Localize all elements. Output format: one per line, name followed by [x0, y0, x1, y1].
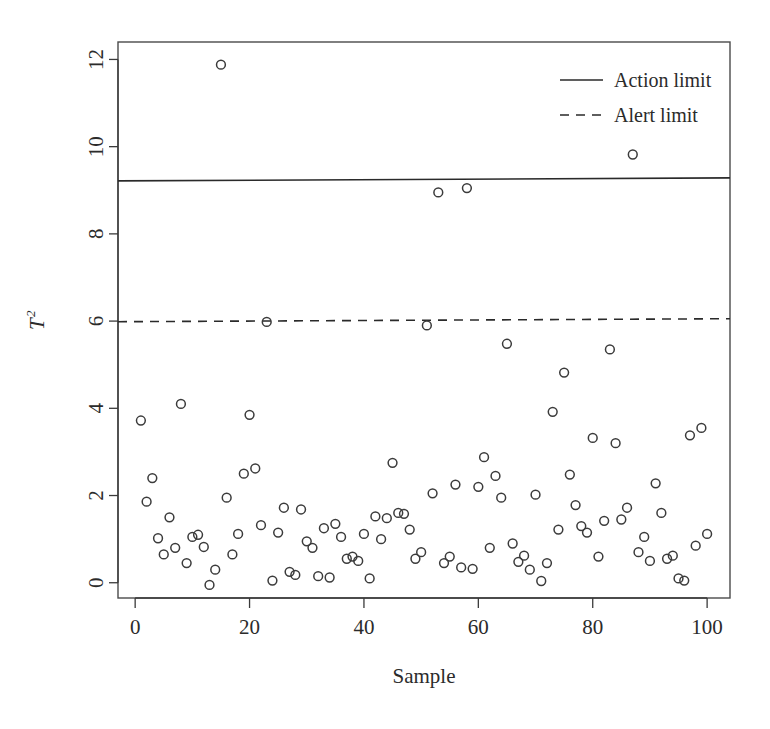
data-point — [159, 550, 168, 559]
data-point — [697, 424, 706, 433]
data-point — [554, 525, 563, 534]
data-point — [480, 453, 489, 462]
data-point — [485, 543, 494, 552]
data-point — [646, 557, 655, 566]
x-tick-label-100: 100 — [691, 615, 723, 639]
data-point — [211, 565, 220, 574]
reference-line-action-limit — [118, 178, 730, 181]
legend-label-alert-limit: Alert limit — [614, 104, 698, 126]
x-tick-label-20: 20 — [239, 615, 260, 639]
data-point — [400, 509, 409, 518]
data-point — [171, 543, 180, 552]
data-point — [594, 552, 603, 561]
x-axis-title: Sample — [393, 664, 456, 688]
data-point — [651, 479, 660, 488]
data-point — [428, 489, 437, 498]
data-point — [331, 519, 340, 528]
x-tick-label-80: 80 — [582, 615, 603, 639]
data-point — [308, 543, 317, 552]
data-point — [205, 581, 214, 590]
data-point — [325, 573, 334, 582]
data-point — [274, 528, 283, 537]
reference-limit-lines — [118, 178, 730, 322]
data-point — [543, 559, 552, 568]
data-point — [320, 524, 329, 533]
data-point — [703, 530, 712, 539]
x-tick-label-40: 40 — [353, 615, 374, 639]
data-point — [571, 501, 580, 510]
data-point — [388, 458, 397, 467]
data-point — [194, 530, 203, 539]
y-tick-label-2: 2 — [84, 490, 108, 501]
data-point — [520, 551, 529, 560]
chart-container: 024681012 020406080100 T 2 Sample Action… — [0, 0, 770, 729]
data-point — [611, 439, 620, 448]
data-point — [503, 339, 512, 348]
x-tick-label-60: 60 — [468, 615, 489, 639]
data-point — [623, 503, 632, 512]
data-point — [245, 410, 254, 419]
y-tick-label-0: 0 — [84, 577, 108, 588]
data-point — [279, 503, 288, 512]
chart-legend: Action limit Alert limit — [560, 69, 712, 126]
data-point — [525, 565, 534, 574]
data-point — [565, 470, 574, 479]
data-point — [508, 539, 517, 548]
data-point — [674, 574, 683, 583]
data-point — [617, 515, 626, 524]
data-point — [154, 534, 163, 543]
data-point — [182, 559, 191, 568]
data-point — [474, 482, 483, 491]
t2-control-chart: 024681012 020406080100 T 2 Sample Action… — [0, 0, 770, 729]
data-point — [548, 407, 557, 416]
data-point — [497, 493, 506, 502]
data-point — [445, 552, 454, 561]
data-point — [148, 474, 157, 483]
data-point — [142, 497, 151, 506]
data-point — [417, 548, 426, 557]
data-point — [360, 530, 369, 539]
data-point — [600, 516, 609, 525]
data-point — [177, 400, 186, 409]
y-tick-label-10: 10 — [84, 136, 108, 157]
y-axis-title-base: T — [25, 317, 49, 330]
data-point — [686, 431, 695, 440]
y-tick-label-12: 12 — [84, 49, 108, 70]
data-point — [583, 528, 592, 537]
data-point — [680, 576, 689, 585]
data-point — [531, 490, 540, 499]
data-point — [657, 509, 666, 518]
y-tick-label-6: 6 — [84, 316, 108, 327]
data-point — [165, 513, 174, 522]
data-point — [405, 525, 414, 534]
data-point — [365, 574, 374, 583]
data-point — [188, 533, 197, 542]
x-axis-ticks: 020406080100 — [130, 598, 723, 639]
x-tick-label-0: 0 — [130, 615, 141, 639]
data-point — [217, 60, 226, 69]
data-point — [640, 533, 649, 542]
data-point — [422, 321, 431, 330]
data-point — [228, 550, 237, 559]
data-point — [382, 514, 391, 523]
data-point — [634, 548, 643, 557]
y-tick-label-8: 8 — [84, 229, 108, 240]
y-axis-title-superscript: 2 — [23, 310, 38, 317]
data-point — [342, 554, 351, 563]
data-point — [451, 480, 460, 489]
data-point — [463, 184, 472, 193]
data-point — [222, 493, 231, 502]
data-point — [337, 533, 346, 542]
data-point — [588, 434, 597, 443]
data-point — [468, 564, 477, 573]
legend-label-action-limit: Action limit — [614, 69, 712, 91]
data-point — [537, 577, 546, 586]
data-point — [251, 464, 260, 473]
data-point — [262, 318, 271, 327]
scatter-points — [136, 60, 711, 589]
data-point — [136, 416, 145, 425]
data-point — [491, 472, 500, 481]
y-axis-ticks: 024681012 — [84, 49, 118, 588]
data-point — [199, 543, 208, 552]
data-point — [457, 563, 466, 572]
